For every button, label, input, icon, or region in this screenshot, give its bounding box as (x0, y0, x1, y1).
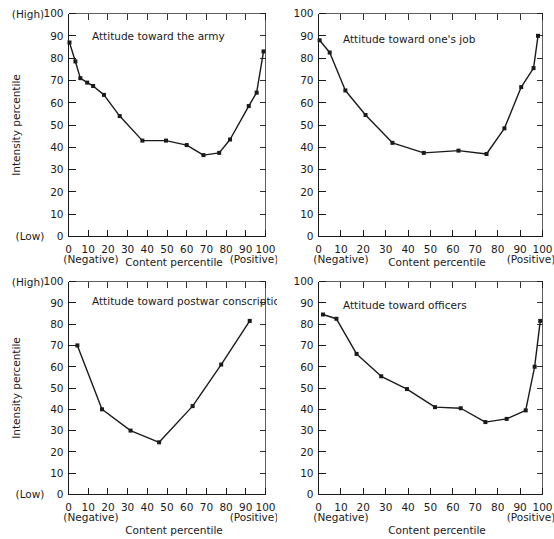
x-tick-label-50: 50 (160, 243, 173, 255)
panel-title-top-left: Attitude toward the army (92, 30, 225, 42)
y-low-label-top-left: (Low) (16, 230, 45, 242)
data-point-bottom-right-11 (538, 319, 542, 323)
y-tick-label-100: 100 (43, 275, 63, 287)
data-point-top-right-4 (390, 141, 394, 145)
y-tick-label-40: 40 (300, 403, 313, 415)
y-tick-label-90: 90 (300, 297, 313, 309)
data-point-top-left-15 (262, 49, 266, 53)
series-markers-top-left (67, 40, 265, 157)
chart-panel-bottom-left: 0102030405060708090100 01020304050607080… (0, 268, 277, 537)
chart-panel-top-left: 0102030405060708090100 01020304050607080… (0, 0, 277, 269)
y-tick-label-60: 60 (300, 97, 313, 109)
data-point-bottom-right-3 (379, 374, 383, 378)
x-tick-label-30: 30 (121, 501, 134, 513)
data-point-top-left-4 (91, 84, 95, 88)
x-tick-label-30: 30 (379, 501, 392, 513)
series-markers-bottom-left (75, 319, 251, 444)
y-tick-label-50: 50 (300, 382, 313, 394)
x-axis-title-bottom-left: Content percentile (125, 524, 223, 536)
chart-panel-top-right: 0102030405060708090100 01020304050607080… (277, 0, 554, 269)
x-positive-label-top-left: (Positive) (230, 253, 277, 265)
y-tick-label-60: 60 (50, 361, 63, 373)
y-axis-ticks-bottom-left (69, 282, 76, 495)
x-axis-title-top-right: Content percentile (388, 256, 486, 268)
y-tick-label-70: 70 (50, 339, 63, 351)
y-tick-label-80: 80 (50, 318, 63, 330)
chart-panel-bottom-right: 0102030405060708090100 01020304050607080… (277, 268, 554, 537)
chart-svg-bottom-left: 0102030405060708090100 01020304050607080… (0, 268, 277, 539)
y-tick-label-60: 60 (300, 361, 313, 373)
x-positive-label-bottom-right: (Positive) (507, 511, 554, 523)
y-tick-label-100: 100 (293, 275, 313, 287)
y-tick-label-60: 60 (50, 97, 63, 109)
y-tick-label-0: 0 (307, 488, 314, 500)
x-tick-label-50: 50 (424, 501, 437, 513)
data-point-top-left-8 (164, 139, 168, 143)
data-point-top-right-0 (318, 38, 322, 42)
data-point-top-right-5 (422, 151, 426, 155)
y-tick-label-70: 70 (300, 339, 313, 351)
x-axis-title-top-left: Content percentile (125, 256, 223, 268)
data-point-bottom-left-6 (248, 319, 252, 323)
x-tick-label-50: 50 (424, 243, 437, 255)
x-tick-label-60: 60 (446, 501, 459, 513)
y-tick-label-90: 90 (50, 297, 63, 309)
series-markers-bottom-right (321, 313, 542, 425)
x-positive-label-top-right: (Positive) (507, 253, 554, 265)
x-tick-label-70: 70 (200, 243, 213, 255)
y-tick-label-30: 30 (300, 163, 313, 175)
data-point-top-left-6 (118, 114, 122, 118)
y-tick-label-100: 100 (43, 7, 63, 19)
y-axis-tick-labels-top-right: 0102030405060708090100 (293, 7, 313, 242)
data-point-bottom-right-5 (433, 405, 437, 409)
y-tick-label-90: 90 (50, 30, 63, 42)
data-point-bottom-right-1 (334, 317, 338, 321)
data-point-bottom-left-2 (129, 429, 133, 433)
data-point-bottom-left-4 (191, 404, 195, 408)
y-tick-label-0: 0 (307, 230, 314, 242)
data-point-top-left-5 (102, 93, 106, 97)
x-tick-label-70: 70 (200, 501, 213, 513)
x-tick-label-60: 60 (446, 243, 459, 255)
y-tick-label-10: 10 (50, 467, 63, 479)
data-point-bottom-left-3 (157, 440, 161, 444)
data-point-top-left-14 (255, 91, 259, 95)
x-tick-label-40: 40 (401, 501, 414, 513)
x-axis-title-bottom-right: Content percentile (388, 524, 486, 536)
x-positive-label-bottom-left: (Positive) (230, 511, 277, 523)
x-tick-label-30: 30 (379, 243, 392, 255)
data-point-top-left-13 (247, 104, 251, 108)
axes-bottom-right (319, 282, 543, 495)
x-tick-label-40: 40 (141, 243, 154, 255)
data-point-top-left-12 (228, 137, 232, 141)
data-point-bottom-right-8 (505, 417, 509, 421)
chart-svg-top-right: 0102030405060708090100 01020304050607080… (277, 0, 554, 269)
x-tick-label-70: 70 (469, 243, 482, 255)
series-markers-top-right (318, 34, 540, 156)
y-axis-tick-labels-bottom-left: 0102030405060708090100 (43, 275, 63, 500)
x-tick-label-40: 40 (401, 243, 414, 255)
y-tick-label-20: 20 (300, 446, 313, 458)
y-tick-label-0: 0 (57, 230, 64, 242)
data-point-bottom-right-0 (321, 313, 325, 317)
y-tick-label-20: 20 (50, 446, 63, 458)
y-tick-label-80: 80 (300, 318, 313, 330)
data-point-top-left-11 (217, 151, 221, 155)
x-tick-label-50: 50 (160, 501, 173, 513)
data-point-top-right-8 (502, 126, 506, 130)
top-axis-ticks-top-right (319, 14, 543, 237)
data-point-top-left-0 (67, 40, 71, 44)
panel-title-bottom-left: Attitude toward postwar conscription (92, 295, 277, 307)
top-axis-ticks-bottom-right (319, 282, 543, 495)
y-tick-label-10: 10 (300, 208, 313, 220)
data-point-top-left-9 (185, 143, 189, 147)
x-axis-ticks-bottom-right (319, 488, 543, 495)
y-axis-tick-labels-bottom-right: 0102030405060708090100 (293, 275, 313, 500)
data-point-top-left-7 (140, 139, 144, 143)
chart-svg-top-left: 0102030405060708090100 01020304050607080… (0, 0, 277, 269)
axes-bottom-left (69, 282, 266, 495)
x-negative-label-bottom-right: (Negative) (313, 511, 368, 523)
series-line-bottom-right (323, 315, 540, 423)
y-axis-title-bottom-left: Intensity percentile (10, 337, 22, 439)
x-tick-label-40: 40 (141, 501, 154, 513)
